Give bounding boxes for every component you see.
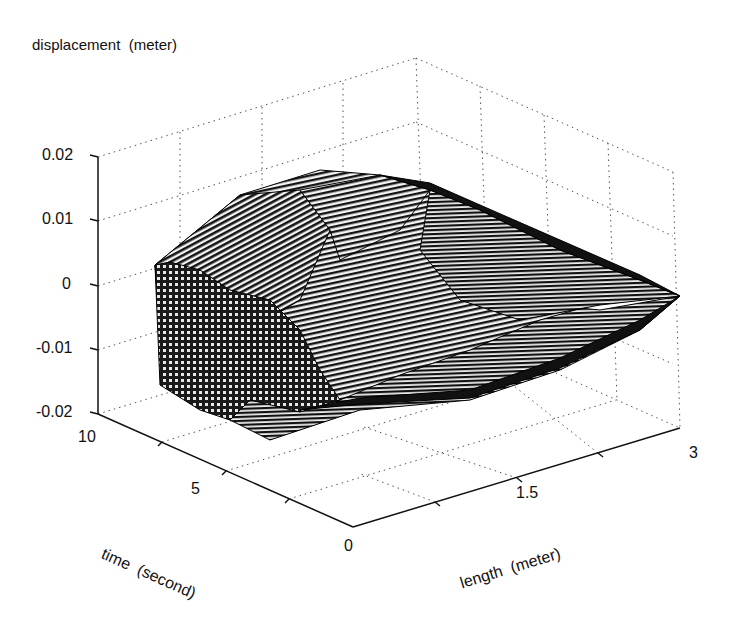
surface-plot: [0, 0, 732, 626]
z-tick-0.02: 0.02: [42, 146, 73, 164]
length-axis-line: [353, 428, 680, 527]
length-tick-3: 3: [689, 444, 698, 462]
z-axis-label: displacement (meter): [32, 36, 177, 53]
z-tick-neg0.01: -0.01: [36, 339, 72, 357]
z-tick-0.01: 0.01: [42, 210, 73, 228]
time-tick-10: 10: [78, 428, 96, 446]
surface-mesh: [155, 170, 680, 440]
z-tick-0: 0: [62, 275, 71, 293]
time-tick-0: 0: [344, 537, 353, 555]
z-tick-neg0.02: -0.02: [36, 403, 72, 421]
length-tick-1.5: 1.5: [516, 484, 538, 502]
time-tick-5: 5: [191, 480, 200, 498]
